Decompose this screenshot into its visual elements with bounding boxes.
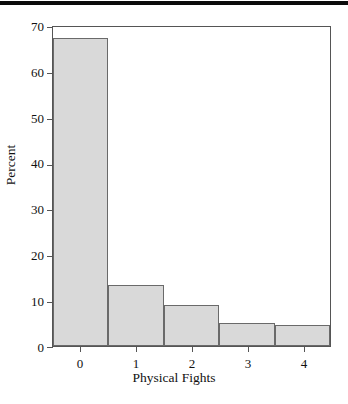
x-tick-mark-3 bbox=[248, 346, 249, 352]
y-tick-label-30: 30 bbox=[10, 203, 44, 216]
y-tick-label-50: 50 bbox=[10, 112, 44, 125]
y-tick-label-70: 70 bbox=[10, 20, 44, 33]
bar-3[interactable] bbox=[219, 323, 275, 346]
y-tick-label-60: 60 bbox=[10, 66, 44, 79]
bar-1[interactable] bbox=[108, 285, 164, 347]
x-tick-label-0: 0 bbox=[65, 357, 95, 370]
y-tick-label-0: 0 bbox=[10, 341, 44, 354]
histogram-figure: Percent 70 60 50 40 30 20 10 0 0 1 2 3 4… bbox=[0, 0, 348, 404]
bar-2[interactable] bbox=[164, 305, 219, 346]
x-tick-label-1: 1 bbox=[121, 357, 151, 370]
x-tick-label-4: 4 bbox=[289, 357, 319, 370]
y-tick-label-10: 10 bbox=[10, 295, 44, 308]
x-tick-mark-0 bbox=[80, 346, 81, 352]
x-tick-mark-1 bbox=[136, 346, 137, 352]
top-black-strip bbox=[0, 1, 348, 5]
x-tick-label-2: 2 bbox=[177, 357, 207, 370]
x-axis-title: Physical Fights bbox=[0, 370, 348, 386]
y-tick-label-40: 40 bbox=[10, 157, 44, 170]
x-tick-label-3: 3 bbox=[233, 357, 263, 370]
bar-4[interactable] bbox=[275, 325, 330, 346]
y-tick-mark-0 bbox=[47, 347, 53, 348]
plot-area bbox=[53, 27, 330, 346]
plot-frame bbox=[52, 26, 331, 347]
y-tick-label-20: 20 bbox=[10, 249, 44, 262]
x-tick-mark-4 bbox=[304, 346, 305, 352]
x-tick-mark-2 bbox=[192, 346, 193, 352]
bar-0[interactable] bbox=[53, 38, 108, 346]
